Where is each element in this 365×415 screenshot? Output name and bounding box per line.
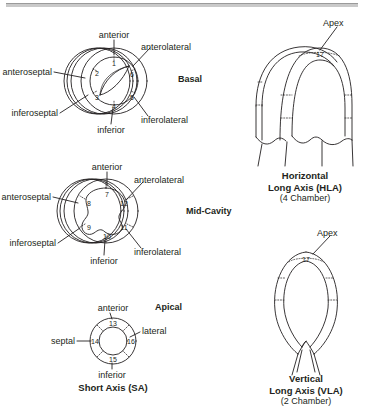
vla-segment-17: 17 (302, 256, 310, 263)
vla-caption-line1: Vertical (269, 373, 343, 385)
basal-callout-inferoseptal: inferoseptal (11, 108, 58, 118)
cardiac-segment-drawing (0, 0, 365, 415)
vla-caption-line2: Long Axis (VLA) (269, 385, 343, 397)
segment-16: 16 (127, 338, 135, 345)
segment-11: 11 (120, 224, 127, 231)
segment-14: 14 (91, 338, 99, 345)
vla-apex-label: Apex (317, 228, 338, 238)
segment-6: 6 (130, 71, 134, 78)
segment-3: 3 (95, 94, 99, 101)
apical-callout-anterior: anterior (98, 303, 129, 313)
segment-10: 10 (103, 233, 111, 240)
midcavity-callout-anteroseptal: anteroseptal (1, 192, 51, 202)
apical-level-label: Apical (155, 302, 182, 312)
segment-2: 2 (95, 70, 99, 77)
apical-callout-inferior: inferior (98, 370, 126, 380)
hla-caption-line3: (4 Chamber) (268, 193, 342, 205)
hla-long-axis-shape (256, 27, 353, 166)
short-axis-group-caption: Short Axis (SA) (78, 382, 147, 394)
basal-callout-inferolateral: inferolateral (141, 115, 188, 125)
midcavity-callout-anterolateral: anterolateral (134, 175, 184, 185)
midcavity-callout-inferior: inferior (90, 256, 118, 266)
midcavity-callout-inferoseptal: inferoseptal (9, 238, 56, 248)
apical-callout-septal: septal (51, 336, 75, 346)
basal-callout-anteroseptal: anteroseptal (2, 67, 52, 77)
basal-callout-inferior: inferior (97, 125, 125, 135)
midcavity-callout-inferolateral: inferolateral (134, 247, 181, 257)
segment-7: 7 (105, 191, 109, 198)
segment-8: 8 (87, 200, 91, 207)
segment-12: 12 (120, 200, 128, 207)
vla-caption-line3: (2 Chamber) (269, 396, 343, 408)
basal-short-axis-shape (54, 40, 150, 124)
segment-1: 1 (112, 60, 116, 67)
midcavity-level-label: Mid-Cavity (186, 206, 232, 216)
vla-caption: Vertical Long Axis (VLA) (2 Chamber) (269, 373, 343, 408)
basal-level-label: Basal (178, 74, 202, 84)
mid-cavity-short-axis-shape (53, 172, 143, 255)
segment-9: 9 (87, 224, 91, 231)
apical-callout-lateral: lateral (142, 326, 167, 336)
hla-segment-17: 17 (316, 51, 324, 58)
hla-caption-line2: Long Axis (HLA) (268, 182, 342, 194)
basal-callout-anterior: anterior (99, 30, 130, 40)
hla-apex-label: Apex (323, 18, 344, 28)
segment-4: 4 (112, 103, 116, 110)
segment-13: 13 (109, 320, 117, 327)
hla-caption-line1: Horizontal (268, 170, 342, 182)
midcavity-callout-anterior: anterior (92, 162, 123, 172)
segment-5: 5 (130, 94, 134, 101)
basal-callout-anterolateral: anterolateral (141, 42, 191, 52)
figure-canvas: anterior anterolateral anteroseptal infe… (0, 0, 365, 415)
hla-caption: Horizontal Long Axis (HLA) (4 Chamber) (268, 170, 342, 205)
segment-15: 15 (109, 356, 117, 363)
short-axis-caption-text: Short Axis (SA) (78, 382, 147, 393)
